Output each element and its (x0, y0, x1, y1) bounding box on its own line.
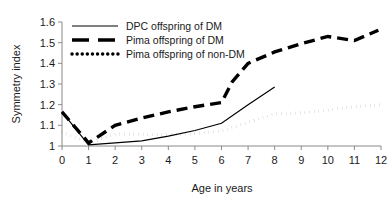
legend-label-0: DPC offspring of DM (126, 20, 222, 32)
x-tick-label: 0 (59, 154, 65, 166)
y-axis-ticks: 11.11.21.31.41.51.6 (40, 16, 62, 152)
x-tick-label: 1 (86, 154, 92, 166)
x-tick-label: 6 (218, 154, 224, 166)
x-tick-label: 10 (322, 154, 334, 166)
y-tick-label: 1.1 (40, 119, 55, 131)
x-tick-label: 5 (192, 154, 198, 166)
x-tick-label: 9 (298, 154, 304, 166)
x-tick-label: 3 (139, 154, 145, 166)
series-line-0 (62, 87, 275, 145)
x-tick-label: 2 (112, 154, 118, 166)
y-tick-label: 1.5 (40, 37, 55, 49)
y-tick-label: 1.2 (40, 99, 55, 111)
x-tick-label: 7 (245, 154, 251, 166)
legend-label-2: Pima offspring of non-DM (126, 48, 245, 60)
chart-legend: DPC offspring of DMPima offspring of DMP… (72, 20, 245, 60)
x-tick-label: 8 (272, 154, 278, 166)
y-tick-label: 1 (49, 140, 55, 152)
y-axis-title: Symmetry index (10, 44, 22, 123)
x-tick-label: 4 (165, 154, 171, 166)
y-tick-label: 1.6 (40, 16, 55, 28)
x-tick-label: 12 (375, 154, 387, 166)
x-tick-label: 11 (349, 154, 360, 166)
y-tick-label: 1.4 (40, 57, 55, 69)
x-axis-title: Age in years (191, 182, 253, 194)
x-axis-ticks: 0123456789101112 (59, 146, 387, 166)
y-tick-label: 1.3 (40, 78, 55, 90)
chart-container: 11.11.21.31.41.51.6 0123456789101112 Sym… (0, 0, 391, 198)
symmetry-index-line-chart: 11.11.21.31.41.51.6 0123456789101112 Sym… (0, 0, 391, 198)
legend-label-1: Pima offspring of DM (126, 34, 224, 46)
